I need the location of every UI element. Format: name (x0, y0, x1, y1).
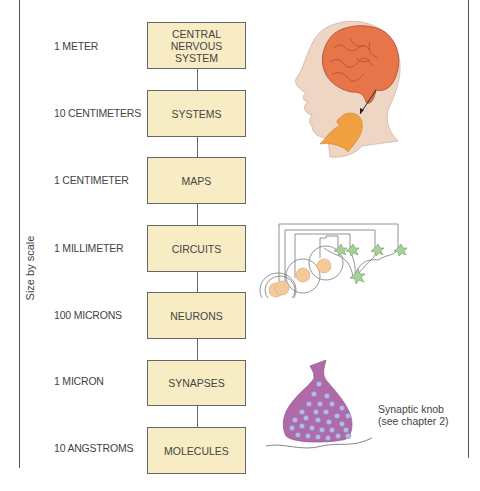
synaptic-knob-illustration (262, 360, 392, 460)
level-box-synapses: SYNAPSES (147, 360, 246, 406)
right-border-line (468, 0, 469, 458)
level-name-line: NERVOUS (171, 40, 223, 52)
axis-label: Size by scale (24, 228, 36, 308)
connector-line (197, 137, 198, 157)
caption-line: Synaptic knob (378, 403, 449, 415)
scale-label-1cm: 1 CENTIMETER (54, 174, 129, 186)
connector-line (197, 339, 198, 360)
level-box-molecules: MOLECULES (147, 427, 246, 474)
level-name-line: SYSTEM (175, 52, 218, 64)
scale-label-100um: 100 MICRONS (54, 309, 122, 321)
scale-label-10cm: 10 CENTIMETERS (54, 107, 141, 119)
level-box-systems: SYSTEMS (147, 90, 246, 137)
scale-label-10a: 10 ANGSTROMS (54, 442, 133, 454)
scale-label-1mm: 1 MILLIMETER (54, 242, 123, 254)
scale-label-1m: 1 METER (54, 40, 98, 52)
level-name-line: CENTRAL (172, 28, 221, 40)
level-box-neurons: NEURONS (147, 292, 246, 339)
connector-line (197, 272, 198, 292)
scale-label-1um: 1 MICRON (54, 375, 104, 387)
level-box-maps: MAPS (147, 157, 246, 204)
head-brain-illustration (290, 18, 410, 163)
neural-circuit-illustration (258, 218, 418, 298)
caption-line: (see chapter 2) (378, 415, 449, 427)
left-border-line (19, 0, 20, 468)
level-box-cns: CENTRAL NERVOUS SYSTEM (147, 22, 246, 69)
connector-line (197, 406, 198, 427)
connector-line (197, 204, 198, 225)
connector-line (197, 69, 198, 90)
synaptic-knob-caption: Synaptic knob (see chapter 2) (378, 403, 449, 427)
level-box-circuits: CIRCUITS (147, 225, 246, 272)
